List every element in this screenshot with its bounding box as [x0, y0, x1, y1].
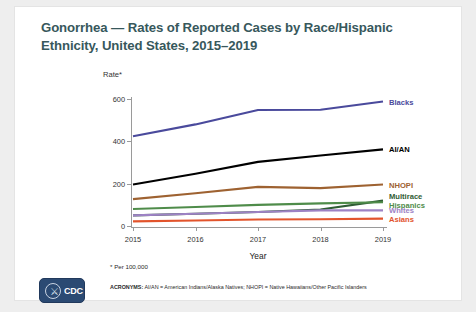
cdc-wordmark: CDC [64, 286, 83, 296]
footnote-acronyms-label: ACRONYMS: [110, 284, 143, 290]
y-axis-line [131, 97, 132, 228]
series-line-nhopi [133, 185, 383, 200]
series-label-multirace: Multirace [389, 192, 422, 201]
footnote-acronyms: ACRONYMS: AI/AN = American Indians/Alask… [110, 284, 367, 290]
x-tick-label: 2016 [187, 235, 203, 244]
cdc-logo[interactable]: ⚔ CDC [39, 278, 85, 303]
x-tick-label: 2018 [312, 235, 328, 244]
hhs-seal-bird-glyph: ⚔ [50, 286, 59, 297]
y-tick-mark [127, 226, 131, 227]
y-tick-mark [127, 99, 131, 100]
x-tick-mark [258, 227, 259, 231]
x-tick-mark [321, 227, 322, 231]
y-tick-label: 600 [113, 95, 125, 104]
plot-area: Year 020040060020152016201720182019Black… [133, 99, 383, 226]
footnote-rate: * Per 100,000 [110, 263, 148, 270]
y-tick-label: 0 [121, 222, 125, 231]
page-title: Gonorrhea — Rates of Reported Cases by R… [41, 19, 445, 54]
slide-frame: Gonorrhea — Rates of Reported Cases by R… [0, 0, 476, 312]
x-tick-mark [383, 227, 384, 231]
x-tick-mark [196, 227, 197, 231]
series-line-ai-an [133, 149, 383, 184]
series-label-blacks: Blacks [389, 97, 414, 106]
x-tick-label: 2019 [375, 235, 391, 244]
x-axis-title: Year [133, 251, 383, 261]
footnote-acronyms-text: AI/AN = American Indians/Alaska Natives;… [143, 284, 367, 290]
x-tick-mark [133, 227, 134, 231]
series-label-asians: Asians [389, 214, 414, 223]
x-axis-line [131, 227, 387, 228]
y-tick-mark [127, 141, 131, 142]
y-tick-label: 200 [113, 179, 125, 188]
line-chart: Rate* Year 02004006002015201620172018201… [15, 63, 463, 248]
series-container [133, 99, 383, 226]
y-tick-label: 400 [113, 137, 125, 146]
series-line-blacks [133, 102, 383, 137]
series-label-nhopi: NHOPI [389, 180, 413, 189]
x-tick-label: 2017 [250, 235, 266, 244]
y-axis-title: Rate* [103, 70, 122, 79]
series-line-asians [133, 219, 383, 222]
slide-card: Gonorrhea — Rates of Reported Cases by R… [14, 6, 462, 301]
hhs-seal-icon: ⚔ [45, 283, 61, 299]
x-tick-label: 2015 [125, 235, 141, 244]
series-line-whites [133, 210, 383, 215]
y-tick-mark [127, 184, 131, 185]
series-label-ai-an: AI/AN [389, 145, 410, 154]
